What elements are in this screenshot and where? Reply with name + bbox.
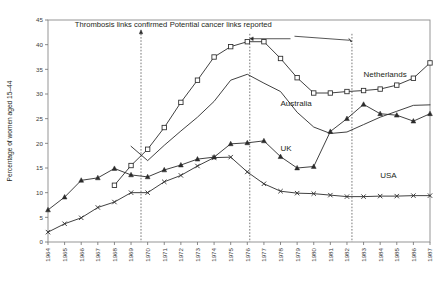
x-tick-label: 1983 — [360, 247, 367, 261]
x-tick-label: 1980 — [310, 247, 317, 261]
data-point-usa — [195, 164, 199, 168]
y-axis-title-text: Percentage of women aged 15–44 — [6, 80, 14, 181]
annotation-label-cancer: Potential cancer links reported — [170, 20, 272, 29]
annotation-arrow-right-cancer — [294, 36, 349, 40]
x-tick-label: 1967 — [94, 247, 101, 261]
x-tick-label: 1977 — [260, 247, 267, 261]
x-tick-label: 1964 — [44, 247, 51, 261]
data-point-netherlands — [212, 55, 216, 59]
data-point-netherlands — [129, 163, 133, 167]
series-label-netherlands: Netherlands — [364, 70, 407, 79]
x-tick-label: 1965 — [61, 247, 68, 261]
data-point-uk — [95, 175, 100, 180]
y-tick-label: 0 — [40, 238, 44, 245]
y-tick-label: 20 — [36, 140, 43, 147]
data-point-uk — [112, 166, 117, 171]
x-tick-label: 1979 — [294, 247, 301, 261]
data-point-netherlands — [245, 40, 249, 44]
data-point-usa — [96, 205, 100, 209]
x-tick-label: 1966 — [78, 247, 85, 261]
series-label-uk: UK — [281, 144, 293, 153]
annotation-arrowhead-left-cancer — [250, 37, 253, 41]
data-point-usa — [179, 173, 183, 177]
y-tick-label: 10 — [36, 189, 43, 196]
data-point-netherlands — [295, 76, 299, 80]
x-tick-label: 1984 — [377, 247, 384, 261]
data-point-netherlands — [411, 76, 415, 80]
x-tick-label: 1985 — [393, 247, 400, 261]
data-point-netherlands — [262, 40, 266, 44]
data-point-netherlands — [179, 100, 183, 104]
data-point-uk — [378, 111, 383, 116]
x-tick-label: 1968 — [111, 247, 118, 261]
line-chart: 051015202530354045 196419651966196719681… — [0, 0, 448, 282]
data-point-uk — [311, 164, 316, 169]
data-point-netherlands — [345, 89, 349, 93]
x-tick-label: 1986 — [410, 247, 417, 261]
y-tick-label: 5 — [40, 214, 44, 221]
data-point-uk — [428, 111, 433, 116]
y-tick-label: 40 — [36, 41, 43, 48]
y-axis-title: Percentage of women aged 15–44 — [6, 80, 14, 181]
y-tick-label: 45 — [36, 16, 43, 23]
x-tick-label: 1970 — [144, 247, 151, 261]
data-point-usa — [262, 182, 266, 186]
data-point-netherlands — [278, 56, 282, 60]
x-tick-label: 1987 — [426, 247, 433, 261]
data-point-usa — [245, 170, 249, 174]
x-tick-label: 1974 — [210, 247, 217, 261]
x-tick-label: 1982 — [343, 247, 350, 261]
annotation-arrow-thrombosis — [139, 30, 142, 34]
y-tick-label: 15 — [36, 164, 43, 171]
data-point-usa — [62, 222, 66, 226]
y-tick-label: 35 — [36, 66, 43, 73]
y-tick-label: 30 — [36, 90, 43, 97]
y-axis-tick-labels: 051015202530354045 — [36, 16, 43, 245]
y-tick-label: 25 — [36, 115, 43, 122]
data-point-netherlands — [361, 88, 365, 92]
data-point-uk — [212, 155, 217, 160]
series-label-usa: USA — [380, 171, 397, 180]
data-point-netherlands — [162, 125, 166, 129]
x-tick-label: 1973 — [194, 247, 201, 261]
data-point-usa — [79, 216, 83, 220]
series-line-netherlands — [114, 42, 430, 186]
annotation-label-thrombosis: Thrombosis links confirmed — [75, 20, 167, 29]
data-point-usa — [112, 200, 116, 204]
data-point-netherlands — [378, 87, 382, 91]
series-label-australia: Australia — [281, 99, 313, 108]
x-tick-label: 1978 — [277, 247, 284, 261]
data-point-netherlands — [395, 83, 399, 87]
plot-frame — [48, 20, 430, 242]
data-point-netherlands — [145, 147, 149, 151]
data-point-netherlands — [195, 78, 199, 82]
data-point-uk — [262, 138, 267, 143]
data-point-uk — [361, 102, 366, 107]
data-point-uk — [328, 129, 333, 134]
x-axis-tick-labels: 1964196519661967196819691970197119721973… — [44, 247, 433, 261]
series-inline-labels: NetherlandsAustraliaUKUSA — [281, 70, 407, 180]
x-tick-label: 1976 — [244, 247, 251, 261]
chart-container: 051015202530354045 196419651966196719681… — [0, 0, 448, 282]
series-line-usa — [48, 157, 430, 232]
annotations-group: Thrombosis links confirmedPotential canc… — [75, 20, 352, 42]
x-tick-label: 1972 — [177, 247, 184, 261]
data-point-netherlands — [428, 61, 432, 65]
data-point-netherlands — [328, 91, 332, 95]
data-point-netherlands — [312, 91, 316, 95]
data-point-usa — [162, 180, 166, 184]
x-tick-label: 1969 — [127, 247, 134, 261]
x-tick-label: 1971 — [161, 247, 168, 261]
x-tick-label: 1975 — [227, 247, 234, 261]
data-point-netherlands — [112, 183, 116, 187]
data-point-netherlands — [228, 44, 232, 48]
data-point-uk — [46, 207, 51, 212]
x-tick-label: 1981 — [327, 247, 334, 261]
